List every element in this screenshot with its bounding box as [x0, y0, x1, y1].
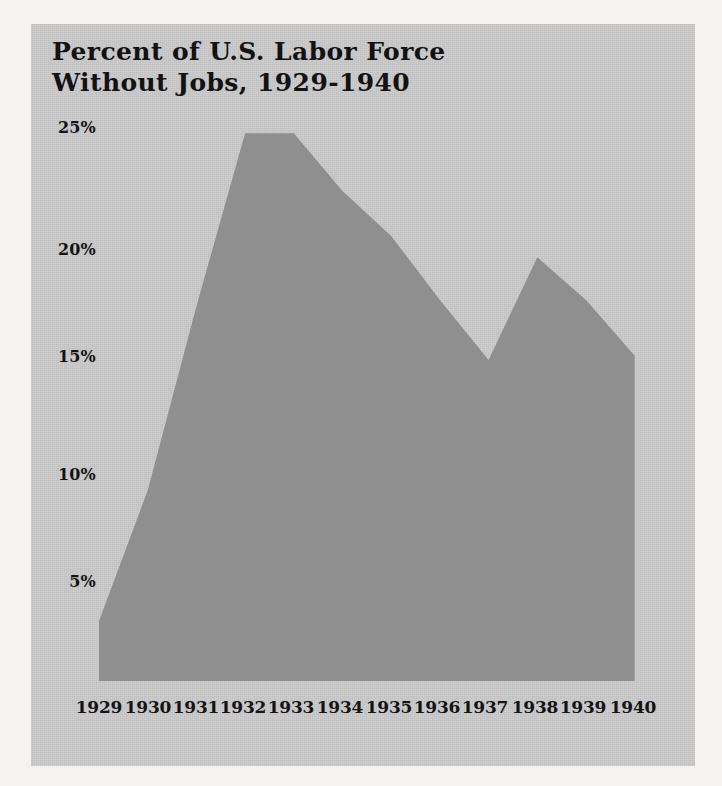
x-tick-label-1934: 1934 — [314, 697, 366, 717]
x-tick-label-1935: 1935 — [363, 697, 415, 717]
x-tick-label-1939: 1939 — [557, 697, 609, 717]
x-tick-label-1931: 1931 — [170, 697, 222, 717]
y-tick-label-10: 10% — [38, 465, 96, 484]
x-tick-label-1938: 1938 — [509, 697, 561, 717]
x-tick-label-1940: 1940 — [607, 697, 659, 717]
unemployment-area-series — [99, 133, 635, 681]
y-tick-label-5: 5% — [38, 572, 96, 591]
x-tick-label-1932: 1932 — [217, 697, 269, 717]
x-tick-label-1929: 1929 — [73, 697, 125, 717]
x-tick-label-1936: 1936 — [411, 697, 463, 717]
page-title: Percent of U.S. Labor Force Without Jobs… — [52, 36, 612, 98]
y-tick-label-25: 25% — [38, 118, 96, 137]
x-axis-tick-labels: 1929 1930 1931 1932 1933 1934 1935 1936 … — [0, 697, 722, 721]
x-tick-label-1933: 1933 — [265, 697, 317, 717]
plot-area — [0, 0, 722, 786]
y-tick-label-20: 20% — [38, 240, 96, 259]
x-tick-label-1937: 1937 — [459, 697, 511, 717]
y-tick-label-15: 15% — [38, 347, 96, 366]
chart-page: Percent of U.S. Labor Force Without Jobs… — [0, 0, 722, 786]
area-chart-svg — [0, 0, 722, 786]
x-tick-label-1930: 1930 — [122, 697, 174, 717]
